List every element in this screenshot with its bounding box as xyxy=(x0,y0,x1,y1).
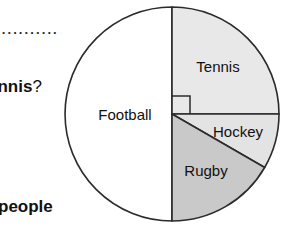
pie-slice-label-tennis: Tennis xyxy=(196,58,239,75)
pie-chart-svg: Tennis Football Hockey Rugby xyxy=(0,0,283,239)
pie-slice-label-rugby: Rugby xyxy=(184,162,228,179)
pie-slice-label-football: Football xyxy=(98,106,151,123)
pie-chart: Tennis Football Hockey Rugby xyxy=(0,0,283,239)
worksheet-page: ........... ennis? people Tennis Footbal… xyxy=(0,0,283,239)
pie-slice-label-hockey: Hockey xyxy=(213,123,264,140)
